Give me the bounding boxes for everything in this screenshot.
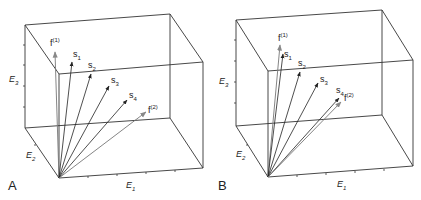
- vector-s4-a: [59, 100, 127, 178]
- axis-e2-b: E2: [236, 149, 246, 161]
- svg-text:s2: s2: [88, 60, 97, 72]
- vector-s1-b: [268, 54, 283, 177]
- svg-text:f(1): f(1): [278, 32, 288, 43]
- box-frame-b: [236, 10, 413, 177]
- panel-a: f(1) s1 s2 s3 s4 f(2) E3 E2 E1 A: [8, 14, 203, 193]
- panel-b: f(1) s1 s2 s3 s4 f(2) E3 E2 E1 B: [218, 10, 413, 193]
- svg-text:s4: s4: [129, 90, 138, 102]
- axis-e2-a: E2: [26, 150, 36, 162]
- axis-e1-b: E1: [337, 179, 346, 191]
- svg-text:f(1): f(1): [50, 37, 60, 48]
- axis-e3-a: E3: [9, 74, 19, 86]
- vector-f2-a: [59, 112, 146, 178]
- svg-text:f(2): f(2): [148, 104, 158, 115]
- vector-s3-a: [59, 86, 109, 178]
- vector-f2-b: [268, 102, 341, 177]
- svg-text:s1: s1: [73, 49, 82, 61]
- vector-s1-a: [59, 62, 72, 178]
- svg-text:s3: s3: [111, 75, 120, 87]
- svg-text:s3: s3: [320, 74, 329, 86]
- axis-labels-b: E3 E2 E1: [219, 76, 346, 191]
- vector-labels-a: f(1) s1 s2 s3 s4 f(2): [50, 37, 158, 115]
- panel-label-a: A: [8, 178, 17, 193]
- axis-e1-a: E1: [126, 180, 135, 192]
- axis-e3-b: E3: [219, 76, 229, 88]
- ticks-b: [234, 40, 384, 177]
- vector-s2-a: [59, 74, 91, 178]
- svg-text:f(2): f(2): [344, 92, 354, 103]
- svg-text:s1: s1: [284, 49, 293, 61]
- panel-label-b: B: [218, 178, 227, 193]
